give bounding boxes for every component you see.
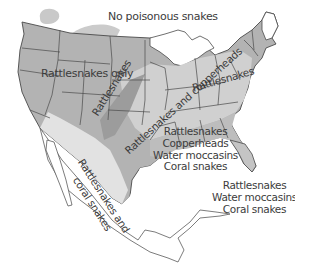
label-florida-group: Rattlesnakes Water moccasins Coral snake… [212,180,295,215]
label-southeast-coral-snakes: Coral snakes [153,161,238,173]
maine [262,12,278,40]
label-no-poisonous-snakes: No poisonous snakes [108,11,218,22]
label-florida-rattlesnakes: Rattlesnakes [212,180,295,192]
label-southeast-copperheads: Copperheads [153,138,238,150]
label-southeast-group: Rattlesnakes Copperheads Water moccasins… [153,126,238,173]
canada-blob-west [40,9,59,24]
label-florida-water-moccasins: Water moccasins [212,192,295,204]
label-florida-coral-snakes: Coral snakes [212,204,295,216]
label-southeast-rattlesnakes: Rattlesnakes [153,126,238,138]
